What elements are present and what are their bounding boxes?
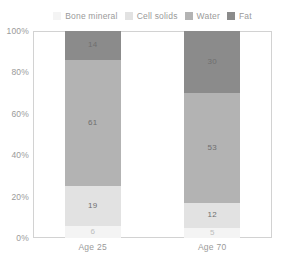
bar-segment-value-label: 5 xyxy=(210,229,215,237)
x-axis-category-label: Age 70 xyxy=(153,242,273,258)
bar-column: 1461196 xyxy=(33,31,153,238)
y-axis-tick-label: 0% xyxy=(16,233,29,243)
bar-series-container: 14611963053125 xyxy=(33,31,272,238)
legend-item[interactable]: Cell solids xyxy=(125,12,178,21)
legend-item[interactable]: Bone mineral xyxy=(53,12,117,21)
bar-segment[interactable]: 61 xyxy=(65,60,121,186)
legend-item-label: Fat xyxy=(239,12,252,21)
y-axis-tick-label: 100% xyxy=(6,26,29,36)
x-axis-category-label: Age 25 xyxy=(33,242,153,258)
bar-segment-value-label: 30 xyxy=(208,58,217,66)
legend-swatch-icon xyxy=(185,12,193,20)
legend-swatch-icon xyxy=(227,12,235,20)
bar-segment-value-label: 61 xyxy=(88,119,97,127)
legend-item[interactable]: Fat xyxy=(227,12,252,21)
legend-item-label: Cell solids xyxy=(137,12,178,21)
legend-item-label: Bone mineral xyxy=(65,12,117,21)
bar-segment[interactable]: 14 xyxy=(65,31,121,60)
stacked-bar[interactable]: 3053125 xyxy=(184,31,240,238)
bar-segment[interactable]: 5 xyxy=(184,228,240,238)
legend-swatch-icon xyxy=(125,12,133,20)
legend-swatch-icon xyxy=(53,12,61,20)
stacked-bar[interactable]: 1461196 xyxy=(65,31,121,238)
bar-segment-value-label: 19 xyxy=(88,202,97,210)
bar-segment-value-label: 6 xyxy=(90,228,95,236)
bar-column: 3053125 xyxy=(153,31,273,238)
legend-item[interactable]: Water xyxy=(185,12,220,21)
bar-segment[interactable]: 12 xyxy=(184,203,240,228)
chart-legend: Bone mineralCell solidsWaterFat xyxy=(0,9,305,23)
y-axis-tick-label: 40% xyxy=(11,150,29,160)
bar-segment-value-label: 12 xyxy=(208,211,217,219)
legend-item-label: Water xyxy=(197,12,220,21)
bar-segment[interactable]: 30 xyxy=(184,31,240,93)
bar-segment-value-label: 14 xyxy=(88,41,97,49)
bar-segment[interactable]: 6 xyxy=(65,226,121,238)
y-axis: 100%80%60%40%20%0% xyxy=(0,31,33,238)
y-axis-tick-label: 80% xyxy=(11,67,29,77)
bar-segment[interactable]: 19 xyxy=(65,186,121,225)
y-axis-tick-label: 60% xyxy=(11,109,29,119)
bar-segment-value-label: 53 xyxy=(208,144,217,152)
x-axis: Age 25Age 70 xyxy=(33,242,272,258)
bar-segment[interactable]: 53 xyxy=(184,93,240,203)
y-axis-tick-label: 20% xyxy=(11,192,29,202)
